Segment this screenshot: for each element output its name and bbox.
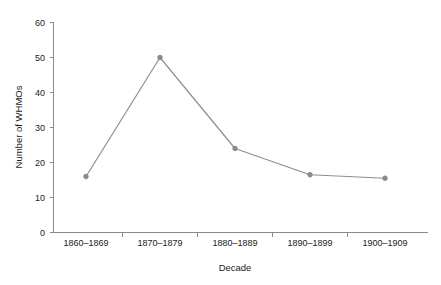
data-point-marker [383, 176, 388, 181]
x-axis-title: Decade [219, 262, 252, 273]
x-tick-label-1880-1889: 1880–1889 [212, 238, 257, 248]
x-tick-label-1900-1909: 1900–1909 [362, 238, 407, 248]
y-axis-ticks [50, 23, 54, 233]
y-tick-label-10: 10 [35, 193, 45, 203]
data-point-marker [84, 174, 89, 179]
y-tick-label-20: 20 [35, 158, 45, 168]
x-tick-label-1860-1869: 1860–1869 [63, 238, 108, 248]
y-tick-label-40: 40 [35, 88, 45, 98]
x-tick-label-1890-1899: 1890–1899 [287, 238, 332, 248]
y-tick-label-60: 60 [35, 18, 45, 28]
data-point-marker [158, 55, 163, 60]
y-axis-title: Number of WHMOs [13, 85, 24, 168]
y-tick-label-30: 30 [35, 123, 45, 133]
line-chart-canvas: 0 10 20 30 40 50 60 1860–1869 1870–1879 … [0, 0, 441, 285]
series-line-whmos [86, 58, 385, 179]
data-point-marker [233, 146, 238, 151]
data-point-marker [308, 172, 313, 177]
chart-figure: 0 10 20 30 40 50 60 1860–1869 1870–1879 … [0, 0, 441, 285]
x-axis-ticks [123, 233, 348, 237]
y-tick-label-50: 50 [35, 53, 45, 63]
x-tick-label-1870-1879: 1870–1879 [137, 238, 182, 248]
y-tick-label-0: 0 [40, 228, 45, 238]
series-markers [84, 55, 388, 181]
